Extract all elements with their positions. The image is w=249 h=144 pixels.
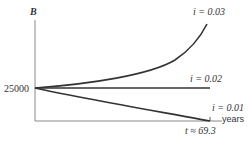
y-axis-label: B xyxy=(29,6,37,17)
series-label-i-003: i = 0.03 xyxy=(193,6,225,17)
t-annotation: t ≈ 69.3 xyxy=(185,125,216,136)
curve-i-001 xyxy=(35,88,210,121)
y-value-label: 25000 xyxy=(4,83,29,94)
series-label-i-001: i = 0.01 xyxy=(212,102,244,113)
series-label-i-002: i = 0.02 xyxy=(190,73,222,84)
curve-i-003 xyxy=(35,24,207,88)
x-axis-label: years xyxy=(222,114,245,124)
chart-canvas: B 25000 i = 0.03 i = 0.02 i = 0.01 years… xyxy=(0,0,249,144)
